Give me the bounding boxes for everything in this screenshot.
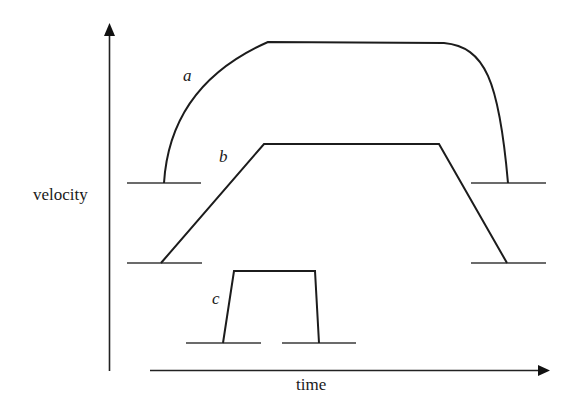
diagram-svg bbox=[0, 0, 578, 419]
curve-a bbox=[127, 42, 546, 183]
velocity-time-diagram: velocity time a b c bbox=[0, 0, 578, 419]
time-axis-arrow-icon bbox=[538, 365, 550, 376]
time-axis bbox=[150, 365, 550, 376]
curve-c-label: c bbox=[212, 289, 220, 309]
curve-b-label: b bbox=[219, 147, 228, 167]
velocity-axis-arrow-icon bbox=[104, 23, 115, 36]
curve-a-label: a bbox=[183, 66, 192, 86]
velocity-axis bbox=[104, 23, 115, 371]
curve-c-path bbox=[223, 271, 319, 343]
curve-b-path bbox=[161, 144, 507, 263]
time-axis-label: time bbox=[296, 375, 326, 395]
velocity-axis-label: velocity bbox=[33, 185, 88, 205]
curve-a-path bbox=[164, 42, 508, 183]
curve-b bbox=[127, 144, 546, 263]
